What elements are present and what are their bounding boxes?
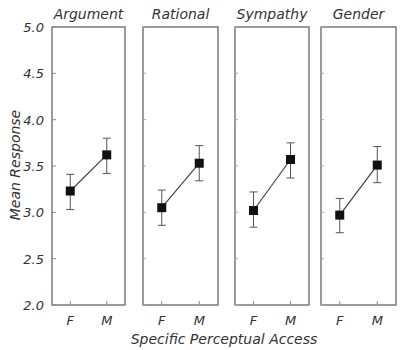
x-tick-label: M (194, 313, 205, 328)
panel-frame (321, 27, 396, 305)
y-tick-label: 4.5 (23, 66, 44, 81)
y-tick-label: 5.0 (23, 20, 44, 35)
y-tick-label: 2.0 (23, 298, 44, 313)
y-tick-label: 3.0 (23, 205, 44, 220)
x-tick-label: M (285, 313, 296, 328)
panel-sympathy: SympathyFM (235, 6, 309, 328)
panel-frame (52, 27, 125, 305)
x-tick-label: M (101, 313, 112, 328)
y-axis: 2.02.53.03.54.04.55.0 (23, 20, 44, 313)
x-tick-label: F (250, 313, 258, 328)
series-line (162, 163, 200, 207)
data-point-marker (335, 211, 344, 220)
series-line (340, 165, 378, 215)
x-axis-label: Specific Perceptual Access (131, 331, 318, 347)
data-point-marker (102, 150, 111, 159)
x-tick-label: F (336, 313, 344, 328)
data-point-marker (195, 159, 204, 168)
panel-frame (143, 27, 218, 305)
panel-frame (235, 27, 309, 305)
y-tick-label: 3.5 (23, 159, 44, 174)
panel-title: Argument (53, 6, 124, 22)
y-tick-label: 4.0 (23, 113, 44, 128)
panel-title: Gender (333, 6, 386, 22)
data-point-marker (157, 203, 166, 212)
series-line (254, 160, 291, 211)
data-point-marker (286, 155, 295, 164)
panel-title: Rational (152, 6, 210, 22)
y-tick-label: 2.5 (23, 252, 44, 267)
panel-title: Sympathy (237, 6, 309, 22)
x-tick-label: M (372, 313, 383, 328)
panel-rational: RationalFM (143, 6, 218, 328)
x-tick-label: F (67, 313, 75, 328)
x-tick-label: F (158, 313, 166, 328)
series-line (70, 155, 107, 191)
y-axis-label: Mean Response (7, 110, 23, 220)
data-point-marker (249, 206, 258, 215)
data-point-marker (373, 161, 382, 170)
data-point-marker (66, 187, 75, 196)
faceted-line-chart: 2.02.53.03.54.04.55.0 ArgumentFMRational… (0, 0, 403, 350)
panel-argument: ArgumentFM (52, 6, 125, 328)
chart-panels: ArgumentFMRationalFMSympathyFMGenderFM (52, 6, 396, 328)
panel-gender: GenderFM (321, 6, 396, 328)
